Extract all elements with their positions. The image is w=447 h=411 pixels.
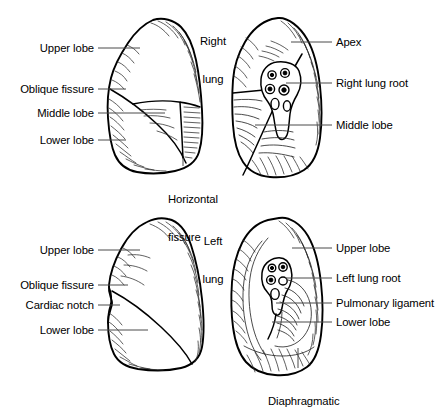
label-diaphragmatic-surface-line1: Diaphragmatic [268,395,378,408]
heading-right-lung-line2: lung [180,73,246,86]
left-hilum-vessel-1-core [270,266,273,269]
left-hilum-vessel-5 [271,289,279,300]
label-horizontal-fissure-line1: Horizontal [168,193,248,206]
left-hilum-vessel-3-core [269,278,273,282]
label-apex: Apex [336,36,446,49]
hilum-vessel-6 [283,101,290,111]
label-upper-lobe-left-lateral: Upper lobe [0,244,94,257]
left-hilum-vessel-2-core [281,265,285,269]
label-cardiac-notch: Cardiac notch [0,299,94,312]
heading-right-lung-line1: Right [180,35,246,48]
hilum-vessel-4-core [282,88,286,92]
label-middle-lobe-right-medial: Middle lobe [336,119,446,132]
label-lower-lobe-left-medial: Lower lobe [336,316,447,329]
label-oblique-fissure-right-lateral: Oblique fissure [0,83,94,96]
heading-right-lung: Right lung [180,10,246,111]
hilum-vessel-2-core [283,71,287,75]
label-right-lung-root: Right lung root [336,77,446,90]
label-diaphragmatic-surface: Diaphragmatic surface [268,370,378,411]
hilum-vessel-3-core [268,87,272,91]
heading-left-lung-line2: lung [180,273,246,286]
label-pulmonary-ligament: Pulmonary ligament [336,297,447,310]
hilum-vessel-1-core [270,73,273,76]
label-left-lung-root: Left lung root [336,272,447,285]
hilum-vessel-5 [271,98,279,109]
label-upper-lobe-left-medial: Upper lobe [336,242,447,255]
label-upper-lobe-right-lateral: Upper lobe [0,42,94,55]
lung-anatomy-figure: Right lung Left lung Upper lobe Oblique … [0,0,447,411]
label-horizontal-fissure-line2: fissure [168,231,248,244]
label-middle-lobe-right-lateral: Middle lobe [0,107,94,120]
label-horizontal-fissure: Horizontal fissure [168,168,248,269]
label-oblique-fissure-left-lateral: Oblique fissure [0,279,94,292]
label-lower-lobe-right-lateral: Lower lobe [0,134,94,147]
label-lower-lobe-left-lateral: Lower lobe [0,324,94,337]
